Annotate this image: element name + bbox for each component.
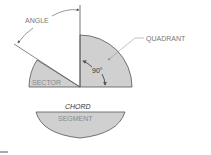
angle-label: ANGLE (25, 17, 49, 24)
angle-arc-lower (18, 28, 33, 43)
angle-arc-upper (52, 10, 79, 16)
quadrant-label: QUADRANT (146, 35, 186, 43)
chord-label: CHORD (65, 103, 91, 110)
sector-label: SECTOR (32, 79, 61, 86)
quadrant-shape (80, 35, 132, 87)
circle-parts-diagram: ANGLE QUADRANT SECTOR 90° CHORD SEGMENT (0, 0, 211, 155)
right-angle-label: 90° (92, 67, 103, 74)
segment-label: SEGMENT (58, 115, 93, 122)
